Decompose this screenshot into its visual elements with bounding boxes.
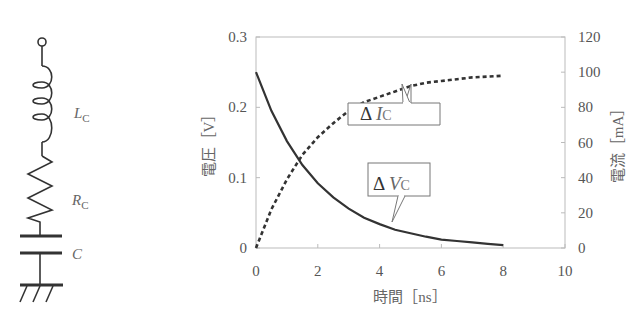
y-right-tick-label: 0: [578, 240, 586, 256]
terminal-icon: [38, 38, 46, 46]
y-right-tick-label: 100: [578, 64, 601, 80]
inductor-label: LC: [73, 105, 90, 124]
x-axis-ticks: 0246810: [252, 263, 572, 279]
y-right-tick-label: 20: [578, 205, 593, 221]
y-left-axis-ticks: 00.10.20.3: [228, 29, 247, 256]
y-left-tick-label: 0.3: [228, 29, 247, 45]
inductor-icon: [33, 66, 52, 142]
y-left-tick-label: 0.1: [228, 170, 247, 186]
voltage-curve: [256, 72, 503, 245]
x-tick-label: 8: [499, 263, 507, 279]
y-right-tick-label: 40: [578, 170, 593, 186]
x-tick-label: 10: [558, 263, 573, 279]
x-tick-label: 4: [376, 263, 384, 279]
y-left-axis-label: 電圧［V］: [201, 107, 217, 178]
callout-delta-vc: Δ VC: [368, 163, 430, 222]
y-right-tick-label: 120: [578, 29, 601, 45]
y-right-tick-label: 80: [578, 99, 593, 115]
resistor-label: RC: [71, 192, 89, 211]
x-tick-label: 6: [438, 263, 446, 279]
y-left-tick-label: 0: [240, 240, 248, 256]
x-tick-label: 2: [314, 263, 322, 279]
current-curve: [256, 76, 503, 248]
y-right-axis-label: 電流［mA］: [610, 101, 626, 184]
callout-delta-ic: Δ IC: [348, 84, 440, 125]
resistor-icon: [28, 156, 52, 236]
circuit-diagram: [20, 38, 63, 302]
x-axis-label: 時間［ns］: [373, 289, 446, 305]
figure: LC RC C 0246810 00.10.20.3 0204060801001…: [0, 0, 640, 320]
y-left-tick-label: 0.2: [228, 99, 247, 115]
x-tick-label: 0: [252, 263, 260, 279]
plot-area: [256, 37, 565, 248]
capacitor-label: C: [72, 246, 83, 262]
y-right-tick-label: 60: [578, 135, 593, 151]
y-right-axis-ticks: 020406080100120: [578, 29, 601, 256]
